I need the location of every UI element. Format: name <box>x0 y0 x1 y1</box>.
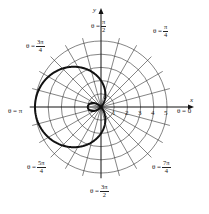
angle-value: 0 <box>188 108 192 115</box>
angle-label-3pi-2: θ = 3π2 <box>90 184 109 198</box>
angle-prefix: θ = <box>26 43 35 50</box>
angle-prefix: θ = <box>152 164 161 171</box>
fraction-denominator: 2 <box>103 192 106 199</box>
fraction-denominator: 4 <box>165 168 168 175</box>
tick-4: 4 <box>151 109 155 117</box>
fraction-denominator: 4 <box>164 32 167 39</box>
grid-ray <box>101 107 119 176</box>
grid-ray <box>101 38 119 107</box>
angle-prefix: θ = <box>90 188 99 195</box>
angle-fraction: π4 <box>163 24 168 38</box>
grid-ray <box>101 89 170 107</box>
angle-label-pi-2: θ = π2 <box>91 19 106 33</box>
angle-prefix: θ = <box>27 164 36 171</box>
angle-prefix: θ = <box>153 28 162 35</box>
tick-3: 3 <box>138 109 142 117</box>
angle-label-0: θ = 0 <box>177 108 191 115</box>
tick-1: 1 <box>112 109 116 117</box>
angle-label-3pi-4: θ = 3π4 <box>26 39 45 53</box>
tick-5: 5 <box>164 109 168 117</box>
angle-fraction: π2 <box>101 19 106 33</box>
fraction-denominator: 4 <box>39 47 42 54</box>
angle-fraction: 5π4 <box>37 160 46 174</box>
y-axis-label: y <box>93 6 96 14</box>
fraction-denominator: 4 <box>40 168 43 175</box>
fraction-denominator: 2 <box>102 27 105 34</box>
angle-label-pi: θ = π <box>8 108 22 115</box>
angle-fraction: 3π4 <box>36 39 45 53</box>
angle-label-5pi-4: θ = 5π4 <box>27 160 46 174</box>
angle-fraction: 7π4 <box>162 160 171 174</box>
x-axis-label: x <box>190 96 193 104</box>
tick-2: 2 <box>125 109 129 117</box>
angle-value: π <box>19 108 23 115</box>
angle-fraction: 3π2 <box>100 184 109 198</box>
angle-label-7pi-4: θ = 7π4 <box>152 160 171 174</box>
angle-label-pi-4: θ = π4 <box>153 24 168 38</box>
angle-prefix: θ = <box>177 108 186 115</box>
y-axis-arrow-icon <box>99 8 104 14</box>
angle-prefix: θ = <box>91 23 100 30</box>
angle-prefix: θ = <box>8 108 17 115</box>
